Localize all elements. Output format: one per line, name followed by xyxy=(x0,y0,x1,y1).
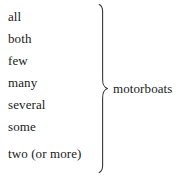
bracket-grouping-figure: all both few many several some two (or m… xyxy=(0,0,184,177)
list-item: few xyxy=(8,50,100,72)
list-item: both xyxy=(8,28,100,50)
quantifier-list: all both few many several some two (or m… xyxy=(8,6,100,165)
curly-brace-icon xyxy=(94,3,112,175)
group-label: motorboats xyxy=(113,80,173,97)
list-item: several xyxy=(8,94,100,116)
list-item: two (or more) xyxy=(8,143,100,165)
list-item: all xyxy=(8,6,100,28)
list-item: many xyxy=(8,72,100,94)
list-item: some xyxy=(8,116,100,138)
